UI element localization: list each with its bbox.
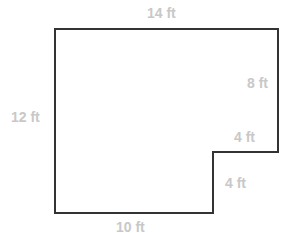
label-right-upper-dimension: 8 ft xyxy=(247,76,268,90)
label-step-vertical-dimension: 4 ft xyxy=(225,176,246,190)
label-left-dimension: 12 ft xyxy=(11,110,40,124)
label-step-horizontal-dimension: 4 ft xyxy=(234,130,255,144)
floor-plan-outline xyxy=(0,0,292,233)
floor-plan-diagram: 14 ft 8 ft 12 ft 4 ft 4 ft 10 ft xyxy=(0,0,292,233)
label-top-dimension: 14 ft xyxy=(147,6,176,20)
label-bottom-dimension: 10 ft xyxy=(116,220,145,233)
